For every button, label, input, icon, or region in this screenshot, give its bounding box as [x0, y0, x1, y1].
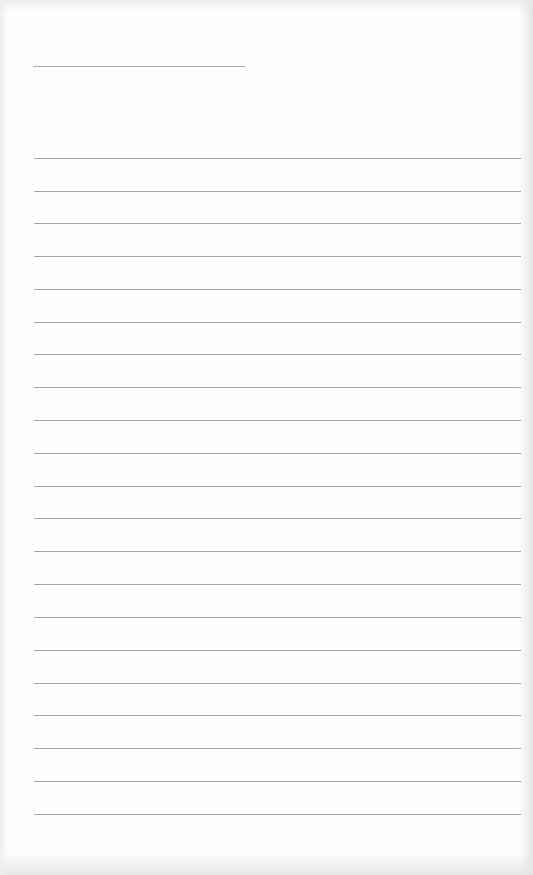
ruled-line: [34, 617, 521, 618]
ruled-line: [34, 584, 521, 585]
ruled-line: [34, 814, 521, 815]
lined-paper-sheet: [0, 0, 533, 875]
paper-edge-shadow-left: [0, 0, 8, 875]
ruled-line: [34, 650, 521, 651]
ruled-line: [34, 191, 521, 192]
ruled-line: [34, 781, 521, 782]
paper-edge-shadow-right: [519, 0, 533, 875]
ruled-line: [34, 256, 521, 257]
ruled-line: [34, 322, 521, 323]
ruled-line: [34, 551, 521, 552]
paper-edge-shadow-top: [0, 0, 533, 12]
ruled-line: [34, 223, 521, 224]
ruled-line: [34, 354, 521, 355]
ruled-line: [34, 683, 521, 684]
ruled-line: [34, 289, 521, 290]
ruled-line: [34, 486, 521, 487]
ruled-line: [34, 748, 521, 749]
ruled-line: [34, 387, 521, 388]
paper-edge-shadow-bottom: [0, 853, 533, 875]
ruled-line: [34, 453, 521, 454]
ruled-line: [34, 158, 521, 159]
ruled-line: [34, 420, 521, 421]
ruled-line: [34, 518, 521, 519]
ruled-line: [34, 715, 521, 716]
header-name-line: [33, 66, 245, 67]
